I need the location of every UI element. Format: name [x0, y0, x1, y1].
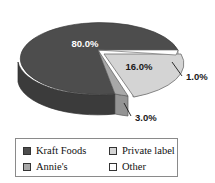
slice-side-annies [115, 94, 128, 116]
legend-item-private-label[interactable]: Private label [109, 143, 186, 159]
slice-label-kraft-foods: 80.0% [72, 38, 99, 49]
legend-label-kraft-foods: Kraft Foods [36, 145, 86, 157]
legend-item-other[interactable]: Other [109, 159, 186, 175]
chart-legend: Kraft Foods Private label Annie's Other [15, 138, 178, 177]
legend-label-other: Other [122, 161, 146, 173]
legend-swatch-icon-kraft-foods [23, 147, 31, 155]
legend-item-annies[interactable]: Annie's [23, 159, 109, 175]
pie-chart-svg: 80.0% 16.0% 1.0% 3.0% [0, 0, 215, 133]
legend-label-private-label: Private label [122, 145, 175, 157]
slice-label-private-label: 16.0% [126, 61, 153, 72]
legend-swatch-icon-other [109, 163, 117, 171]
legend-item-kraft-foods[interactable]: Kraft Foods [23, 143, 109, 159]
slice-label-annies: 3.0% [135, 112, 157, 123]
legend-swatch-icon-private-label [109, 147, 117, 155]
slice-label-other: 1.0% [186, 71, 208, 82]
legend-swatch-icon-annies [23, 163, 31, 171]
legend-label-annies: Annie's [36, 161, 68, 173]
pie-chart: 80.0% 16.0% 1.0% 3.0% [0, 0, 215, 133]
